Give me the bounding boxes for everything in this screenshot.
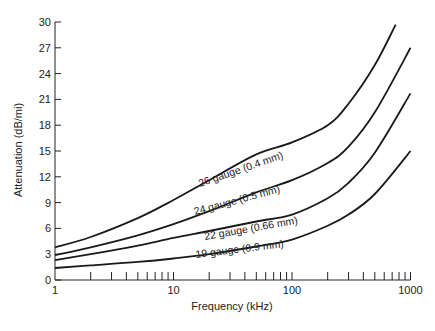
y-tick-label: 9 [45,197,51,209]
y-tick-label: 21 [39,93,51,105]
y-tick-label: 12 [39,171,51,183]
y-tick-label: 0 [45,274,51,286]
x-tick-label: 1 [52,284,58,296]
attenuation-chart: 0369121518212427301101001000 26 gauge (0… [0,0,435,331]
curve-label: 22 gauge (0.66 mm) [203,214,298,242]
curve-0 [55,25,396,248]
y-tick-label: 18 [39,119,51,131]
y-tick-label: 3 [45,248,51,260]
curve-label: 24 gauge (0.5 mm) [192,182,281,217]
y-tick-label: 24 [39,68,51,80]
y-tick-label: 15 [39,145,51,157]
y-tick-label: 6 [45,222,51,234]
curve-label: 26 gauge (0.4 mm) [197,149,285,189]
y-axis-label: Attenuation (dB/mi) [12,103,24,197]
x-tick-label: 10 [167,284,179,296]
y-tick-label: 30 [39,16,51,28]
x-tick-label: 100 [283,284,301,296]
x-axis-label: Frequency (kHz) [191,300,272,312]
curve-labels: 26 gauge (0.4 mm)24 gauge (0.5 mm)22 gau… [192,149,298,260]
y-tick-label: 27 [39,42,51,54]
x-tick-label: 1000 [398,284,422,296]
